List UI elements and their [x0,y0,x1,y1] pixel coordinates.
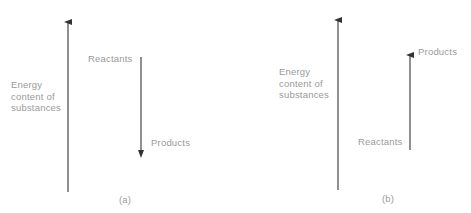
reactants-label-a: Reactants [88,53,133,65]
axis-label-b: Energy content of substances [279,66,339,101]
reactants-label-b: Reactants [358,136,403,148]
axis-label-line: Energy [11,79,71,91]
axis-label-line: content of [279,78,339,90]
axis-label-line: substances [11,102,71,114]
axis-label-line: content of [11,91,71,103]
caption-a: (a) [119,194,131,206]
energy-diagram: Energy content of substances Reactants P… [0,0,471,213]
products-label-b: Products [418,46,457,58]
axis-label-line: Energy [279,66,339,78]
products-label-a: Products [151,137,190,149]
axis-label-a: Energy content of substances [11,79,71,114]
arrowhead-down-a [138,150,144,158]
caption-b: (b) [382,193,394,205]
axis-label-line: substances [279,89,339,101]
